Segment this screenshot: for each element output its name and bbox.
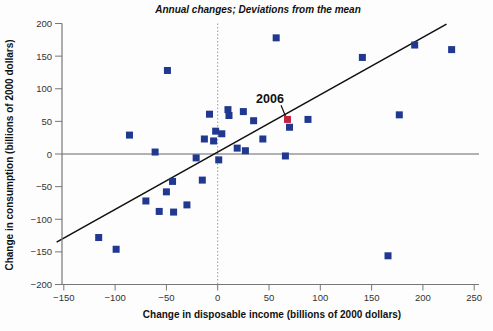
x-axis-label: Change in disposable income (billions of…: [143, 309, 401, 320]
scatter-point: [259, 135, 266, 142]
scatter-point: [212, 128, 219, 135]
x-axis-tick-label: 200: [415, 292, 431, 303]
scatter-point: [183, 201, 190, 208]
scatter-point: [225, 112, 232, 119]
scatter-chart: −150−100−50050100150200250−200−150−100−5…: [0, 0, 493, 331]
trend-line: [57, 24, 447, 242]
scatter-point: [240, 108, 247, 115]
scatter-point: [359, 54, 366, 61]
x-axis-tick-label: 250: [466, 292, 482, 303]
scatter-point: [304, 116, 311, 123]
scatter-point: [385, 252, 392, 259]
scatter-point: [156, 208, 163, 215]
scatter-point: [282, 152, 289, 159]
scatter-point: [448, 46, 455, 53]
y-axis-label: Change in consumption (billions of 2000 …: [4, 39, 15, 270]
scatter-point: [286, 124, 293, 131]
scatter-point: [152, 149, 159, 156]
x-axis-tick-label: 0: [215, 292, 220, 303]
x-axis-tick-label: −50: [158, 292, 174, 303]
scatter-point: [126, 132, 133, 139]
scatter-point: [250, 117, 257, 124]
scatter-plot-figure: −150−100−50050100150200250−200−150−100−5…: [0, 0, 493, 331]
y-axis-tick-label: −200: [31, 279, 52, 290]
scatter-point: [170, 209, 177, 216]
scatter-point: [411, 42, 418, 49]
y-axis-tick-label: 100: [36, 83, 52, 94]
scatter-point: [201, 135, 208, 142]
x-axis-tick-label: 100: [312, 292, 328, 303]
scatter-point-2006: [284, 116, 291, 123]
chart-generated-layer: −150−100−50050100150200250−200−150−100−5…: [31, 18, 483, 303]
annotation-2006-label: 2006: [256, 92, 284, 106]
y-axis-tick-label: −50: [36, 181, 52, 192]
y-axis-tick-label: −150: [31, 246, 52, 257]
y-axis-tick-label: −100: [31, 214, 52, 225]
x-axis-tick-label: −150: [53, 292, 74, 303]
scatter-point: [242, 147, 249, 154]
scatter-point: [273, 34, 280, 41]
scatter-point: [193, 154, 200, 161]
y-axis-tick-label: 200: [36, 18, 52, 29]
x-axis-tick-label: 150: [364, 292, 380, 303]
scatter-point: [169, 178, 176, 185]
scatter-point: [95, 234, 102, 241]
x-axis-tick-label: 50: [264, 292, 275, 303]
annotation-leader-line: [281, 105, 285, 116]
scatter-point: [164, 67, 171, 74]
scatter-point: [215, 156, 222, 163]
scatter-point: [113, 246, 120, 253]
scatter-point: [234, 145, 241, 152]
scatter-point: [163, 188, 170, 195]
y-axis-tick-label: 50: [41, 116, 52, 127]
scatter-point: [210, 137, 217, 144]
scatter-point: [142, 197, 149, 204]
x-axis-tick-label: −100: [104, 292, 125, 303]
scatter-point: [218, 130, 225, 137]
chart-title: Annual changes; Deviations from the mean: [154, 4, 361, 15]
y-axis-tick-label: 150: [36, 51, 52, 62]
y-axis-tick-label: 0: [47, 149, 52, 160]
scatter-point: [396, 111, 403, 118]
scatter-point: [206, 111, 213, 118]
scatter-point: [199, 177, 206, 184]
